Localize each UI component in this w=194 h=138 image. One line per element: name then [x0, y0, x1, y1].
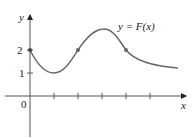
curve-F [30, 29, 178, 73]
y-tick-label-1: 1 [19, 67, 25, 79]
y-tick-label-2: 2 [17, 44, 23, 56]
point-2-2 [76, 48, 80, 52]
function-graph: y x 0 2 1 y = F(x) [0, 0, 194, 138]
point-4-2 [124, 48, 128, 52]
x-axis-label: x [180, 99, 186, 111]
point-0-2 [28, 48, 32, 52]
curve-label: y = F(x) [117, 20, 155, 33]
origin-label: 0 [21, 98, 27, 110]
y-axis-label: y [18, 11, 24, 23]
